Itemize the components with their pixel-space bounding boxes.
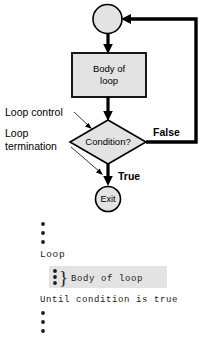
loop-control-leader xyxy=(74,112,92,129)
exit-label: Exit xyxy=(100,194,116,204)
connector-entry-to-body xyxy=(103,34,113,54)
entry-node xyxy=(93,5,122,34)
connector-body-to-condition xyxy=(103,97,113,121)
pseudocode-ellipsis-bottom xyxy=(41,311,45,333)
false-branch-label: False xyxy=(153,126,180,138)
loop-control-label: Loop control xyxy=(5,106,63,118)
loop-termination-label-line1: Loop xyxy=(5,127,29,139)
pseudocode-body-of-loop: Body of loop xyxy=(71,274,143,284)
condition-label: Condition? xyxy=(85,136,130,147)
pseudocode-ellipsis-top xyxy=(41,222,45,244)
pseudocode-body-ellipsis xyxy=(53,269,57,285)
loop-flowchart-figure: Body of loop Condition? Exit False True … xyxy=(0,0,208,342)
body-of-loop-label-line2: loop xyxy=(100,75,118,86)
pseudocode-loop-keyword: Loop xyxy=(40,249,65,260)
connector-true-to-exit xyxy=(103,163,113,186)
loop-termination-label-line2: termination xyxy=(5,140,57,152)
pseudocode-until-line: Until condition is true xyxy=(40,295,178,305)
body-of-loop-label-line1: Body of xyxy=(93,63,126,74)
pseudocode-brace: } xyxy=(59,267,68,288)
true-branch-label: True xyxy=(118,170,140,182)
